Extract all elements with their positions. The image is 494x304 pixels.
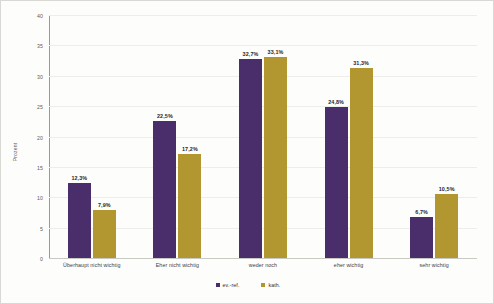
bar-value-label: 12,3%	[71, 175, 87, 181]
bar-chart-figure: Prozent 0510152025303540 12,3%7,9%22,5%1…	[0, 0, 494, 304]
bar-group-bars: 24,8%31,3%	[306, 15, 392, 258]
bar-group-bars: 6,7%10,5%	[391, 15, 477, 258]
bar[interactable]	[178, 154, 201, 258]
bar-groups: 12,3%7,9%22,5%17,2%32,7%33,1%24,8%31,3%6…	[49, 15, 477, 258]
x-axis-category-labels: Überhaupt nicht wichtigEher nicht wichti…	[49, 262, 477, 268]
bar-value-label: 33,1%	[268, 49, 284, 55]
bar[interactable]	[435, 194, 458, 258]
bar-value-label: 24,8%	[328, 99, 344, 105]
bar-group-bars: 22,5%17,2%	[135, 15, 221, 258]
bar-group: 6,7%10,5%	[391, 15, 477, 258]
x-axis-category-label: weder noch	[220, 262, 306, 268]
bar[interactable]	[153, 121, 176, 258]
bar-column: 17,2%	[178, 15, 201, 258]
bar-column: 12,3%	[68, 15, 91, 258]
y-tick-label: 35	[37, 43, 43, 49]
bar-group-bars: 12,3%7,9%	[49, 15, 135, 258]
x-axis-category-label: sehr wichtig	[391, 262, 477, 268]
legend-item[interactable]: ev.-ref.	[216, 282, 240, 288]
plot-frame: 0510152025303540 12,3%7,9%22,5%17,2%32,7…	[49, 15, 477, 258]
bar-value-label: 31,3%	[353, 60, 369, 66]
gridline: 0	[49, 258, 477, 259]
legend-swatch-icon	[261, 283, 265, 287]
bar[interactable]	[410, 217, 433, 258]
bar-column: 22,5%	[153, 15, 176, 258]
bar-value-label: 32,7%	[243, 51, 259, 57]
bar-group: 32,7%33,1%	[220, 15, 306, 258]
bar[interactable]	[264, 57, 287, 258]
y-tick-label: 15	[37, 165, 43, 171]
y-tick-label: 40	[37, 13, 43, 19]
bar[interactable]	[239, 59, 262, 258]
bar-column: 10,5%	[435, 15, 458, 258]
x-axis-category-label: eher wichtig	[306, 262, 392, 268]
bar[interactable]	[350, 68, 373, 258]
bar-value-label: 7,9%	[98, 202, 111, 208]
bar[interactable]	[93, 210, 116, 258]
bar-column: 7,9%	[93, 15, 116, 258]
bar[interactable]	[68, 183, 91, 258]
bar-group-bars: 32,7%33,1%	[220, 15, 306, 258]
x-axis-category-label: Überhaupt nicht wichtig	[49, 262, 135, 268]
bar-group: 12,3%7,9%	[49, 15, 135, 258]
legend-swatch-icon	[216, 283, 220, 287]
bar-column: 24,8%	[325, 15, 348, 258]
y-tick-label: 25	[37, 104, 43, 110]
bar-value-label: 6,7%	[415, 209, 428, 215]
y-tick-label: 30	[37, 74, 43, 80]
y-tick-label: 5	[40, 226, 43, 232]
bar[interactable]	[325, 107, 348, 258]
y-tick-label: 0	[40, 256, 43, 262]
x-axis-category-label: Eher nicht wichtig	[135, 262, 221, 268]
bar-value-label: 17,2%	[182, 146, 198, 152]
bar-column: 31,3%	[350, 15, 373, 258]
bar-value-label: 22,5%	[157, 113, 173, 119]
legend-item[interactable]: kath.	[261, 282, 280, 288]
bar-value-label: 10,5%	[439, 186, 455, 192]
chart-legend: ev.-ref.kath.	[1, 282, 494, 288]
legend-label: ev.-ref.	[223, 282, 240, 288]
bar-group: 22,5%17,2%	[135, 15, 221, 258]
y-tick-label: 20	[37, 135, 43, 141]
y-tick-label: 10	[37, 195, 43, 201]
y-axis-title: Prozent	[12, 143, 18, 162]
bar-column: 32,7%	[239, 15, 262, 258]
legend-label: kath.	[268, 282, 280, 288]
bar-column: 6,7%	[410, 15, 433, 258]
plot-area: 0510152025303540 12,3%7,9%22,5%17,2%32,7…	[49, 15, 477, 258]
bar-group: 24,8%31,3%	[306, 15, 392, 258]
bar-column: 33,1%	[264, 15, 287, 258]
